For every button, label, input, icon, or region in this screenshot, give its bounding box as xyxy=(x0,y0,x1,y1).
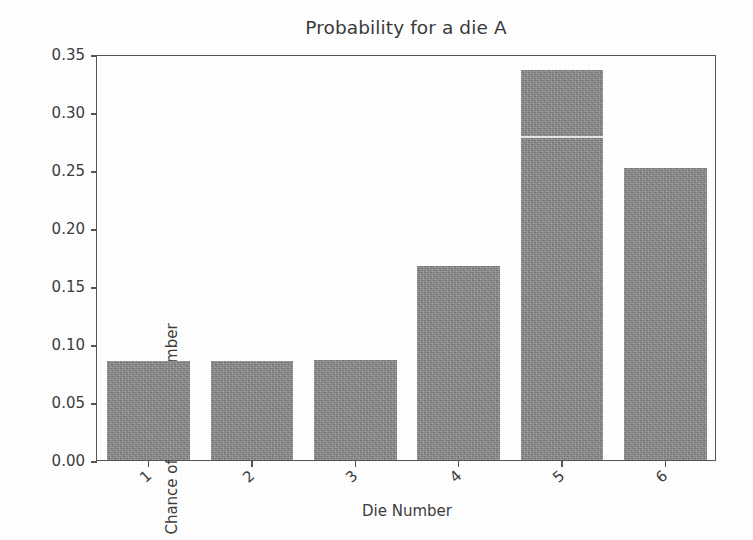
y-tick-mark xyxy=(91,461,97,462)
scan-line-artifact xyxy=(521,136,604,138)
x-tick-label: 4 xyxy=(446,467,465,487)
x-tick-label: 5 xyxy=(549,467,568,487)
plot-area: Chance of getting a number 0.000.050.100… xyxy=(96,55,716,461)
x-tick-label: 6 xyxy=(653,467,672,487)
bar xyxy=(624,168,707,460)
bar xyxy=(107,361,190,460)
bar xyxy=(417,266,500,460)
bar xyxy=(521,70,604,460)
chart-title: Probability for a die A xyxy=(96,17,716,38)
x-tick-mark xyxy=(458,460,459,467)
bar xyxy=(314,360,397,460)
bars-layer xyxy=(97,56,715,460)
chart-figure: Probability for a die A Chance of gettin… xyxy=(0,0,753,540)
x-tick-label: 2 xyxy=(239,467,258,487)
y-tick-label: 0.00 xyxy=(33,452,85,470)
y-tick-label: 0.15 xyxy=(33,278,85,296)
bar xyxy=(211,361,294,460)
x-tick-label: 3 xyxy=(343,467,362,487)
y-tick-label: 0.25 xyxy=(33,162,85,180)
y-tick-label: 0.05 xyxy=(33,394,85,412)
x-tick-mark xyxy=(665,460,666,467)
x-tick-label: 1 xyxy=(136,467,155,487)
x-tick-mark xyxy=(251,460,252,467)
x-tick-mark xyxy=(148,460,149,467)
x-tick-mark xyxy=(561,460,562,467)
y-tick-label: 0.10 xyxy=(33,336,85,354)
x-axis-label: Die Number xyxy=(97,502,717,520)
x-tick-mark xyxy=(355,460,356,467)
y-tick-label: 0.35 xyxy=(33,46,85,64)
y-tick-label: 0.30 xyxy=(33,104,85,122)
y-tick-label: 0.20 xyxy=(33,220,85,238)
